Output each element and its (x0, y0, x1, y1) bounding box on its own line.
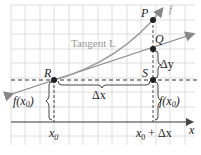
brace-dx (58, 81, 150, 88)
grid (11, 5, 195, 145)
label-tangent: Tangent L (71, 37, 116, 49)
label-R: R (43, 66, 52, 80)
brace-fx0-left (46, 82, 52, 120)
label-Q: Q (155, 32, 164, 46)
point-P (150, 17, 156, 23)
label-fx0-left: f(x0) (13, 94, 34, 109)
label-x0: x0 (48, 126, 58, 142)
label-x0-plus-dx: x0 + Δx (135, 126, 172, 142)
label-dy: Δy (160, 57, 174, 71)
diagram-canvas: P f Q R S Tangent L Δy Δx f(x0) f(x0) x0… (0, 0, 201, 155)
label-S: S (142, 66, 148, 80)
point-Q (150, 46, 156, 52)
label-x-axis: x (188, 123, 195, 137)
label-P: P (140, 6, 149, 20)
point-R (51, 77, 57, 83)
label-fx0-right: f(x0) (159, 94, 180, 109)
point-S (150, 77, 156, 83)
label-dx: Δx (92, 88, 106, 102)
